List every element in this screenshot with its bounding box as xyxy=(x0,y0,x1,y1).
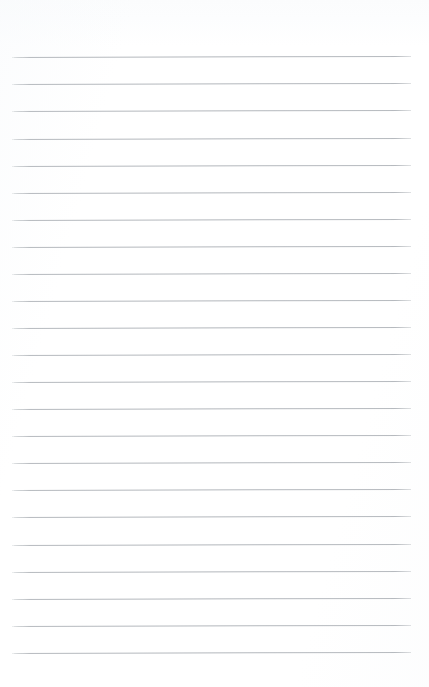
rule-line xyxy=(14,110,411,112)
rule-line xyxy=(14,408,411,410)
rule-line xyxy=(14,354,411,356)
rule-line xyxy=(14,246,411,248)
rule-line xyxy=(14,165,411,167)
rule-line xyxy=(14,83,411,85)
rule-line xyxy=(14,625,411,627)
rule-line xyxy=(14,56,411,58)
rule-line xyxy=(14,544,411,546)
rule-line xyxy=(14,300,411,302)
rule-line xyxy=(14,489,411,491)
rule-line xyxy=(14,219,411,221)
rule-line xyxy=(14,381,411,383)
rule-line xyxy=(14,652,411,654)
rule-line xyxy=(14,138,411,140)
rule-line xyxy=(14,192,411,194)
rule-line xyxy=(14,435,411,437)
rule-line xyxy=(14,598,411,600)
rule-line xyxy=(14,462,411,464)
notepad-page xyxy=(0,0,429,687)
rule-line xyxy=(14,571,411,573)
rule-line xyxy=(14,273,411,275)
rule-line xyxy=(14,516,411,518)
rule-line xyxy=(14,327,411,329)
ruled-line-layer xyxy=(0,0,429,687)
